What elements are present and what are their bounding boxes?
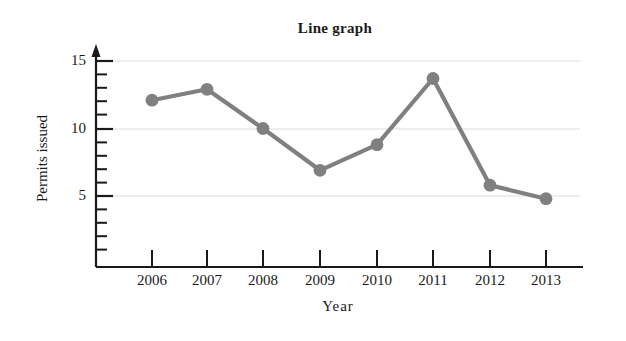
data-point-2008 [257, 122, 270, 135]
data-markers-permits-issued [146, 72, 553, 205]
plot-area [0, 0, 626, 341]
data-point-2007 [201, 83, 214, 96]
y-minor-ticks [96, 74, 107, 249]
data-point-2013 [540, 192, 553, 205]
axis-lines [92, 44, 584, 267]
data-point-2010 [371, 138, 384, 151]
y-major-ticks [96, 61, 113, 196]
x-ticks [152, 250, 546, 267]
gridlines [100, 61, 580, 196]
data-point-2009 [314, 164, 327, 177]
data-point-2011 [427, 72, 440, 85]
line-chart-figure: Line graph Permits issued Year 15 10 5 2… [0, 0, 626, 341]
data-point-2006 [146, 94, 159, 107]
data-point-2012 [484, 179, 497, 192]
y-axis-arrow-icon [92, 44, 101, 57]
